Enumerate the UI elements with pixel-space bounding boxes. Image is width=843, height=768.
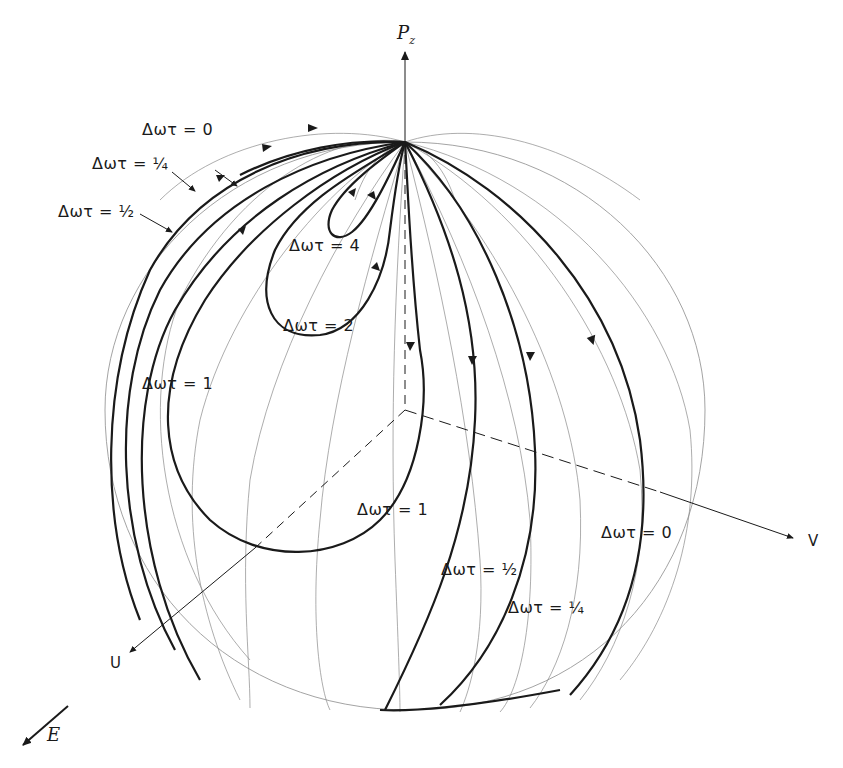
trajectory-bottom: [380, 690, 560, 710]
curve-label-one-bottom: Δωτ = 1: [357, 500, 428, 519]
meridian-grid: [160, 133, 692, 712]
v-axis: [660, 492, 793, 538]
curve-label-top-0: Δωτ = 0: [142, 120, 213, 139]
pz-axis-label: Pz: [397, 22, 415, 47]
v-axis-label: V: [808, 532, 818, 550]
curve-label-one-left: Δωτ = 1: [142, 374, 213, 393]
pz-label-subscript: z: [409, 34, 415, 47]
u-axis-hidden: [255, 410, 405, 548]
label-leaders: [140, 170, 237, 232]
u-axis-label: U: [110, 654, 121, 672]
e-field-arrow: [23, 706, 68, 745]
trajectory-half-right: [385, 142, 476, 710]
e-field-label: E: [47, 724, 60, 745]
pz-label-main: P: [397, 22, 409, 43]
trajectory-quarter-right: [405, 142, 535, 705]
curve-label-top-half: Δωτ = ½: [58, 202, 135, 221]
curve-label-half-bottom: Δωτ = ½: [441, 560, 518, 579]
curve-label-four: Δωτ = 4: [289, 236, 360, 255]
bloch-sphere-diagram: [0, 0, 843, 768]
curve-label-top-quarter: Δωτ = ¼: [92, 154, 169, 173]
trajectory-quarter-left: [126, 142, 405, 650]
curve-label-zero-right: Δωτ = 0: [601, 523, 672, 542]
curve-label-two: Δωτ = 2: [283, 316, 354, 335]
u-axis: [130, 548, 255, 652]
sphere-outline: [105, 142, 705, 710]
curve-label-quarter-bottom: Δωτ = ¼: [508, 598, 585, 617]
